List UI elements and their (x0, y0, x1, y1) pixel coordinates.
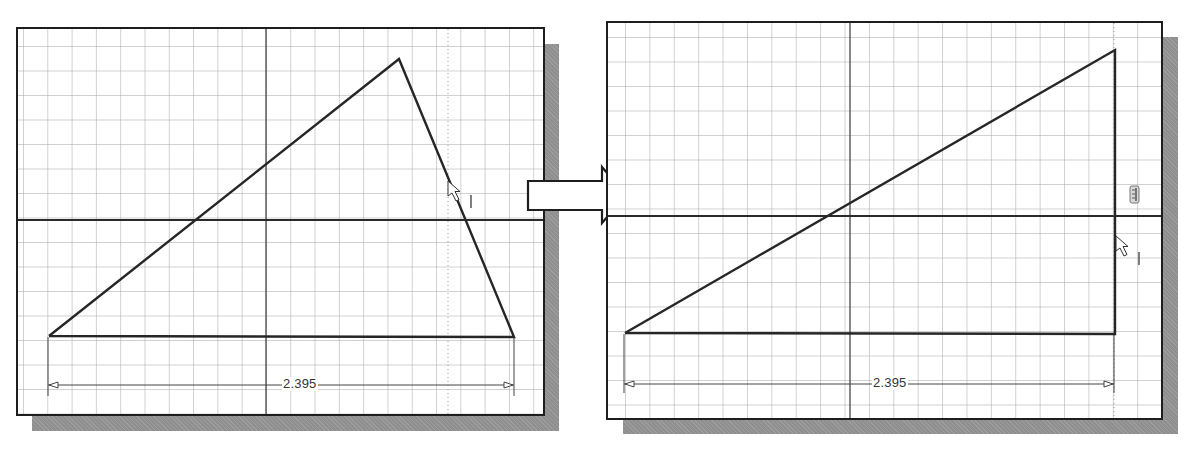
dimension-arrow-right-icon (1104, 381, 1113, 387)
left-sketch-canvas[interactable]: 2.395 (16, 27, 545, 416)
right-sketch-geometry (608, 23, 1161, 418)
dimension-arrow-right-icon (504, 382, 513, 388)
dimension-arrow-left-icon (625, 381, 634, 387)
right-sketch-canvas[interactable]: 2.395 (606, 21, 1163, 420)
vertical-constraint-icon (1130, 186, 1139, 203)
mouse-cursor-icon (1116, 236, 1128, 256)
left-sketch-geometry (18, 29, 543, 414)
dimension-arrow-left-icon (49, 382, 58, 388)
dimension-value[interactable]: 2.395 (282, 377, 318, 391)
dimension-value[interactable]: 2.395 (872, 376, 908, 390)
triangle-shape (625, 50, 1115, 334)
triangle-shape (49, 59, 514, 337)
mouse-cursor-icon (448, 181, 460, 201)
